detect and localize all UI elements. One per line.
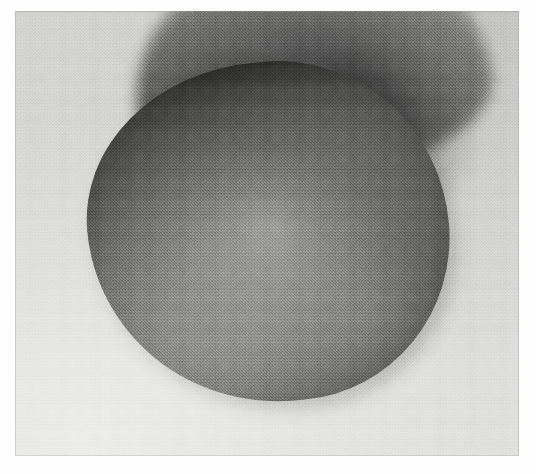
- artwork-canvas: Two Overlapping Ovoid Forms: [0, 0, 536, 474]
- front-lobe-form: [74, 47, 463, 417]
- photographic-plate: [15, 11, 519, 456]
- front-lobe-group: [88, 62, 449, 402]
